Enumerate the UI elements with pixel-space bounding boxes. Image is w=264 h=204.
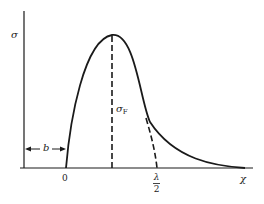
stress-diagram: σ σF b 0 λ 2 χ [0, 0, 264, 204]
peak-stress-label-main: σ [116, 103, 123, 114]
peak-stress-label: σF [116, 104, 128, 116]
offset-label: b [43, 143, 49, 153]
x-axis-label: χ [240, 174, 246, 184]
arrowhead-left-icon [25, 147, 31, 152]
y-axis-label: σ [11, 30, 18, 40]
arrowhead-right-icon [60, 147, 66, 152]
stress-curve [66, 35, 245, 168]
origin-label: 0 [62, 174, 68, 183]
half-wavelength-label: λ 2 [153, 173, 160, 194]
peak-stress-label-sub: F [123, 108, 128, 116]
diagram-canvas [0, 0, 264, 204]
half-wavelength-numerator: λ [154, 173, 160, 182]
half-wavelength-denominator: 2 [154, 185, 160, 194]
